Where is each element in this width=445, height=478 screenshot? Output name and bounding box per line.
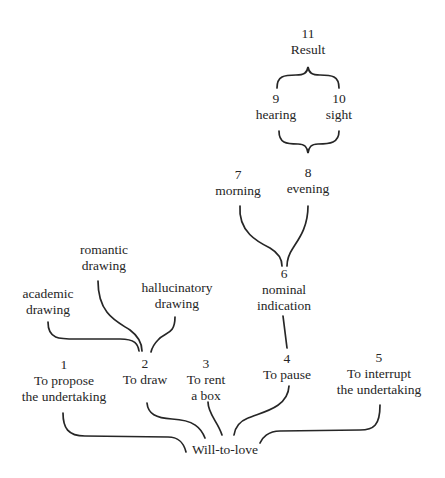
node-label: morning	[215, 183, 261, 199]
node-morning: 7 morning	[215, 167, 261, 199]
will-to-love-diagram: 11 Result 9 hearing 10 sight 7 morning 8…	[0, 0, 445, 478]
sub-branch-academic-drawing: academic drawing	[23, 286, 74, 318]
node-number: 3	[187, 356, 225, 372]
node-nominal-indication: 6 nominal indication	[257, 266, 311, 314]
sub-branch-hallucinatory-drawing: hallucinatory drawing	[141, 280, 212, 312]
connector-evening-nominal	[287, 206, 308, 266]
sub-branch-romantic-drawing: romantic drawing	[80, 242, 128, 274]
sub-branch-label: romantic	[80, 242, 128, 258]
node-number: 2	[123, 356, 167, 372]
node-label: hearing	[256, 107, 296, 123]
root-will-to-love: Will-to-love	[192, 442, 258, 458]
connector-pause-will	[234, 386, 289, 435]
node-label: the undertaking	[337, 382, 421, 398]
root-label: Will-to-love	[192, 442, 258, 458]
node-number: 5	[337, 350, 421, 366]
node-rent-box: 3 To rent a box	[187, 356, 225, 404]
connector-hallucinatory-draw	[151, 317, 175, 352]
node-number: 1	[22, 357, 106, 373]
sub-branch-label: drawing	[80, 258, 128, 274]
node-to-draw: 2 To draw	[123, 356, 167, 388]
node-label: indication	[257, 298, 311, 314]
brace-result	[277, 67, 339, 88]
node-label: To draw	[123, 372, 167, 388]
node-label: To rent	[187, 372, 225, 388]
node-number: 9	[256, 91, 296, 107]
connector-romantic-draw	[98, 281, 142, 351]
node-label: the undertaking	[22, 389, 106, 405]
node-number: 11	[291, 26, 326, 42]
sub-branch-label: hallucinatory	[141, 280, 212, 296]
node-number: 4	[263, 351, 311, 367]
node-label: nominal	[257, 282, 311, 298]
node-number: 10	[326, 91, 352, 107]
node-label: To propose	[22, 373, 106, 389]
node-evening: 8 evening	[287, 165, 330, 197]
connector-nominal-pause	[283, 316, 287, 348]
connector-draw-will	[147, 403, 205, 438]
node-sight: 10 sight	[326, 91, 352, 123]
node-number: 7	[215, 167, 261, 183]
node-hearing: 9 hearing	[256, 91, 296, 123]
sub-branch-label: drawing	[141, 296, 212, 312]
connector-morning-nominal	[240, 206, 282, 266]
node-label: To pause	[263, 367, 311, 383]
node-label: Result	[291, 42, 326, 58]
brace-senses	[279, 131, 339, 153]
node-number: 8	[287, 165, 330, 181]
connector-interrupt-will	[260, 405, 380, 443]
connector-rentbox-will	[208, 402, 222, 435]
node-to-pause: 4 To pause	[263, 351, 311, 383]
connector-lines	[0, 0, 445, 478]
node-label: a box	[187, 388, 225, 404]
sub-branch-label: academic	[23, 286, 74, 302]
node-label: To interrupt	[337, 366, 421, 382]
node-result: 11 Result	[291, 26, 326, 58]
node-propose-undertaking: 1 To propose the undertaking	[22, 357, 106, 405]
node-number: 6	[257, 266, 311, 282]
node-label: sight	[326, 107, 352, 123]
sub-branch-label: drawing	[23, 302, 74, 318]
node-label: evening	[287, 181, 330, 197]
node-interrupt-undertaking: 5 To interrupt the undertaking	[337, 350, 421, 398]
